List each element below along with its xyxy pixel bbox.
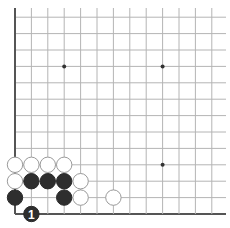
black-stone[interactable] [40, 174, 55, 189]
white-stone[interactable] [7, 174, 22, 189]
white-stone[interactable] [56, 157, 71, 172]
black-stone-disc [24, 174, 39, 189]
white-stone-disc [24, 157, 39, 172]
white-stone-disc [7, 157, 22, 172]
white-stone-disc [73, 174, 88, 189]
black-stone-disc [7, 190, 22, 205]
black-stone[interactable] [56, 174, 71, 189]
black-stone[interactable] [7, 190, 22, 205]
white-stone[interactable] [106, 190, 121, 205]
black-stone-disc [56, 190, 71, 205]
white-stone-disc [40, 157, 55, 172]
black-stone[interactable] [24, 174, 39, 189]
black-stone-disc [56, 174, 71, 189]
go-board[interactable]: 1 [0, 0, 230, 228]
black-stone-disc [40, 174, 55, 189]
star-point [62, 64, 66, 68]
white-stone-disc [7, 174, 22, 189]
white-stone[interactable] [73, 174, 88, 189]
white-stone[interactable] [73, 190, 88, 205]
black-stone[interactable]: 1 [24, 206, 39, 221]
black-stone[interactable] [56, 190, 71, 205]
white-stone-disc [73, 190, 88, 205]
white-stone-disc [56, 157, 71, 172]
move-number-label: 1 [28, 208, 35, 222]
star-point [161, 163, 165, 167]
white-stone[interactable] [40, 157, 55, 172]
white-stone-disc [106, 190, 121, 205]
white-stone[interactable] [24, 157, 39, 172]
star-point [161, 64, 165, 68]
white-stone[interactable] [7, 157, 22, 172]
